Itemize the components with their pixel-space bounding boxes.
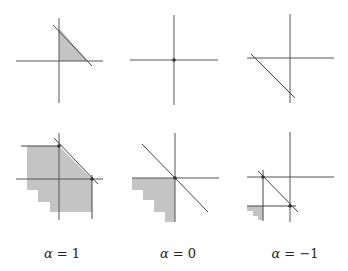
label-alpha-neg1: α = −1 bbox=[271, 246, 318, 261]
alpha-symbol: α bbox=[44, 246, 53, 261]
panel-bottom-alpha-1 bbox=[16, 133, 103, 220]
vertex-dot bbox=[173, 176, 177, 180]
label-value: = 1 bbox=[53, 246, 80, 261]
label-value: = 0 bbox=[169, 246, 196, 261]
feasible-region bbox=[132, 178, 175, 222]
feasible-region bbox=[247, 206, 263, 220]
vertex-dot bbox=[172, 58, 176, 62]
label-value: = −1 bbox=[280, 246, 318, 261]
feasible-region bbox=[59, 28, 88, 61]
alpha-symbol: α bbox=[271, 246, 280, 261]
figure-canvas bbox=[0, 0, 348, 271]
vertex-dot bbox=[261, 175, 265, 179]
vertex-dot bbox=[288, 204, 292, 208]
alpha-symbol: α bbox=[160, 246, 169, 261]
vertex-dot bbox=[57, 144, 61, 148]
panel-bottom-alpha-neg1 bbox=[247, 132, 334, 222]
panel-bottom-alpha-0 bbox=[132, 133, 219, 222]
panel-top-alpha-neg1 bbox=[247, 14, 334, 103]
vertex-dot bbox=[90, 177, 94, 181]
panel-top-alpha-0 bbox=[130, 15, 218, 105]
label-alpha-1: α = 1 bbox=[44, 246, 80, 261]
label-alpha-0: α = 0 bbox=[160, 246, 196, 261]
panel-top-alpha-1 bbox=[16, 18, 103, 103]
constraint-line bbox=[251, 54, 295, 98]
